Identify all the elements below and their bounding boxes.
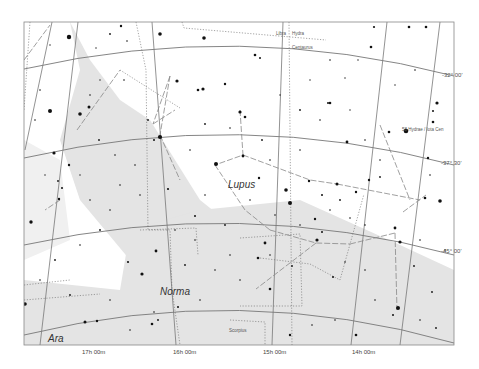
star — [329, 102, 332, 105]
star — [349, 217, 351, 219]
star — [155, 250, 158, 253]
star — [379, 176, 381, 178]
star — [329, 209, 331, 211]
star — [54, 259, 56, 261]
star — [129, 329, 131, 331]
star — [39, 279, 41, 281]
star — [239, 279, 241, 281]
star — [29, 220, 32, 223]
star — [370, 46, 373, 49]
star — [109, 33, 111, 35]
star — [394, 227, 397, 230]
star — [425, 26, 428, 29]
star — [109, 209, 111, 211]
star — [299, 149, 301, 151]
star — [257, 257, 260, 260]
star — [319, 119, 321, 121]
star — [69, 294, 71, 296]
star — [254, 54, 257, 57]
constellation-label-lupus: Lupus — [228, 180, 255, 190]
star — [408, 26, 411, 29]
star — [308, 180, 310, 182]
star — [78, 112, 82, 116]
star — [153, 311, 155, 313]
star — [364, 269, 366, 271]
star — [67, 35, 71, 39]
dec-axis-label: -32° 00' — [442, 72, 463, 78]
star — [229, 127, 231, 129]
ra-axis-label: 16h 00m — [173, 349, 196, 355]
star — [109, 299, 111, 301]
star — [291, 265, 293, 267]
star — [394, 84, 395, 85]
star — [201, 87, 204, 90]
star — [321, 231, 323, 233]
star — [214, 162, 218, 166]
star — [373, 26, 375, 28]
star — [355, 191, 357, 193]
dec-axis-label: -37° 30' — [441, 160, 462, 166]
star — [414, 69, 416, 71]
neighbor-constellation-label: Libra — [276, 32, 286, 37]
star — [289, 334, 291, 336]
star — [336, 183, 339, 186]
star — [364, 139, 366, 141]
star — [199, 299, 201, 301]
star — [349, 109, 350, 110]
dec-axis-label: -45° 00' — [441, 248, 462, 254]
star — [57, 180, 59, 182]
star — [435, 101, 438, 104]
star — [438, 199, 442, 203]
star — [398, 240, 401, 243]
star — [147, 119, 149, 121]
star — [204, 194, 206, 196]
star — [314, 218, 316, 220]
star — [214, 269, 216, 271]
star — [435, 327, 437, 329]
star — [269, 159, 271, 161]
star — [224, 83, 226, 85]
star — [197, 89, 200, 92]
star — [368, 179, 370, 181]
star — [88, 106, 91, 109]
star — [299, 224, 301, 226]
neighbor-constellation-label: Scorpius — [229, 329, 247, 334]
star — [329, 59, 331, 61]
star — [99, 79, 100, 80]
star — [157, 319, 159, 321]
star — [279, 94, 280, 95]
star — [167, 188, 169, 190]
star — [44, 174, 45, 175]
star — [34, 119, 36, 121]
star — [49, 44, 50, 45]
star — [264, 242, 267, 245]
star — [68, 164, 70, 166]
star — [89, 94, 91, 96]
star — [58, 198, 60, 200]
star — [344, 261, 346, 263]
star — [355, 334, 358, 337]
constellation-label-ara: Ara — [48, 334, 64, 344]
star — [126, 40, 128, 42]
star — [158, 135, 162, 139]
star — [184, 264, 186, 266]
star — [432, 121, 435, 124]
ra-axis-label: 17h 00m — [82, 349, 105, 355]
star — [392, 314, 394, 316]
star — [259, 57, 261, 59]
star — [432, 110, 434, 112]
star — [427, 157, 429, 159]
star — [61, 187, 63, 189]
star — [194, 215, 196, 217]
star-name-label: 58 Hydrae / Iota Cen — [402, 128, 444, 133]
star — [242, 155, 245, 158]
star — [269, 288, 272, 291]
star — [379, 159, 381, 161]
star — [431, 291, 433, 293]
star — [334, 319, 336, 321]
star — [327, 102, 329, 104]
star — [269, 254, 271, 256]
star — [140, 272, 143, 275]
star — [194, 239, 196, 241]
star — [249, 199, 251, 201]
